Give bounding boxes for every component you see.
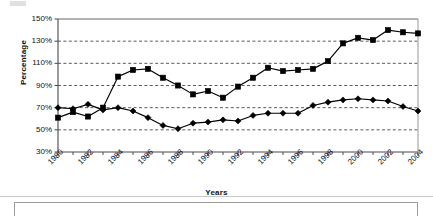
line-chart-plot <box>0 0 433 216</box>
y-tick-label: 30% <box>18 147 52 156</box>
y-tick-label: 50% <box>18 125 52 134</box>
gridlines <box>58 19 418 130</box>
footer-divider <box>0 196 433 197</box>
chart-figure: Percentage 150%130%110%90%70%50%30% 1980… <box>0 0 433 216</box>
caption-box <box>14 202 418 216</box>
y-tick-label: 110% <box>18 58 52 67</box>
y-tick-label: 130% <box>18 36 52 45</box>
data-series-layer <box>55 27 421 131</box>
y-tick-label: 70% <box>18 103 52 112</box>
y-tick-label: 90% <box>18 81 52 90</box>
y-tick-label: 150% <box>18 14 52 23</box>
